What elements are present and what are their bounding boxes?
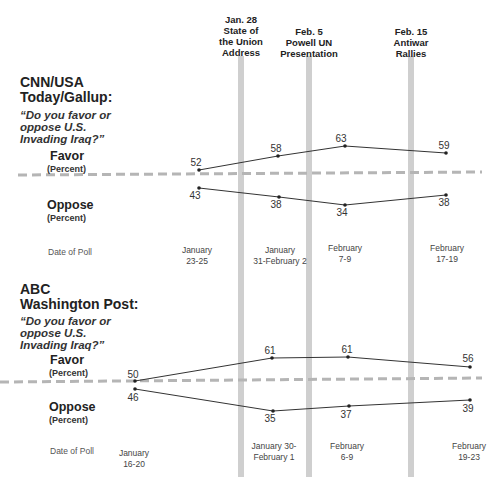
- panel-1-date: February 7-9: [300, 243, 390, 265]
- panel-2-date: February 6-9: [302, 441, 392, 463]
- date-line: January: [152, 245, 242, 256]
- question-line: oppose U.S.: [20, 121, 111, 133]
- panel-2-favor-label: Favor: [50, 353, 84, 367]
- panel-2-oppose-sub: (Percent): [49, 415, 88, 425]
- date-line: January: [89, 448, 179, 459]
- question-line: “Do you favor or: [20, 315, 111, 327]
- oppose-line-2: [135, 389, 470, 411]
- date-line: February: [402, 243, 492, 254]
- date-line: February: [424, 441, 501, 452]
- panel-2-date: February 19-23: [424, 441, 501, 463]
- favor-markers-1: [197, 144, 448, 172]
- panel-1-date: February 17-19: [402, 243, 492, 265]
- source-line: Today/Gallup:: [20, 90, 112, 105]
- panel-2-favor-value: 56: [456, 353, 480, 364]
- panel-2-oppose-value: 39: [456, 403, 480, 414]
- question-line: “Do you favor or: [20, 109, 111, 121]
- panel-2-oppose-value: 35: [258, 413, 282, 424]
- source-line: CNN/USA: [20, 75, 112, 90]
- panel-2-oppose-label: Oppose: [49, 400, 96, 414]
- panel-1-favor-value: 58: [264, 143, 288, 154]
- panel-1-favor-label: Favor: [50, 149, 84, 163]
- panel-1-question: “Do you favor or oppose U.S. Invading Ir…: [20, 109, 111, 145]
- favor-line-1: [199, 146, 446, 170]
- date-line: February: [302, 441, 392, 452]
- panel-2-date: January 16-20: [89, 448, 179, 470]
- panel-2-source: ABC Washington Post:: [20, 282, 138, 312]
- panel-1-oppose-value: 43: [183, 190, 207, 201]
- divider-dashed-line-2: [0, 378, 482, 382]
- date-line: 6-9: [302, 452, 392, 463]
- favor-line-2: [135, 357, 470, 381]
- source-line: Washington Post:: [20, 297, 138, 312]
- date-line: 23-25: [152, 256, 242, 267]
- panel-2-oppose-value: 46: [121, 392, 145, 403]
- panel-1-date: January 23-25: [152, 245, 242, 267]
- question-line: Invading Iraq?”: [20, 339, 111, 351]
- question-line: oppose U.S.: [20, 327, 111, 339]
- date-line: 19-23: [424, 452, 501, 463]
- panel-1-oppose-value: 38: [432, 197, 456, 208]
- divider-dashed-line-1: [18, 172, 482, 175]
- panel-1-date-header: Date of Poll: [48, 247, 92, 257]
- panel-1-favor-sub: (Percent): [47, 164, 86, 174]
- question-line: Invading Iraq?”: [20, 133, 111, 145]
- panel-2-oppose-value: 37: [334, 409, 358, 420]
- panel-1-oppose-sub: (Percent): [47, 213, 86, 223]
- panel-1-oppose-label: Oppose: [47, 198, 94, 212]
- panel-1-favor-value: 63: [329, 133, 353, 144]
- source-line: ABC: [20, 282, 138, 297]
- date-line: February: [300, 243, 390, 254]
- panel-2-favor-value: 61: [335, 344, 359, 355]
- panel-1-favor-value: 59: [432, 140, 456, 151]
- panel-2-date-header: Date of Poll: [50, 446, 94, 456]
- oppose-markers-1: [197, 186, 448, 207]
- panel-2-question: “Do you favor or oppose U.S. Invading Ir…: [20, 315, 111, 351]
- date-line: 17-19: [402, 254, 492, 265]
- date-line: 16-20: [89, 459, 179, 470]
- oppose-line-1: [199, 188, 446, 205]
- panel-1-oppose-value: 34: [330, 207, 354, 218]
- panel-1-source: CNN/USA Today/Gallup:: [20, 75, 112, 105]
- panel-1-favor-value: 52: [184, 157, 208, 168]
- panel-2-favor-value: 61: [258, 345, 282, 356]
- date-line: 7-9: [300, 254, 390, 265]
- panel-2-favor-sub: (Percent): [49, 368, 88, 378]
- panel-2-favor-value: 50: [121, 369, 145, 380]
- panel-1-oppose-value: 38: [264, 199, 288, 210]
